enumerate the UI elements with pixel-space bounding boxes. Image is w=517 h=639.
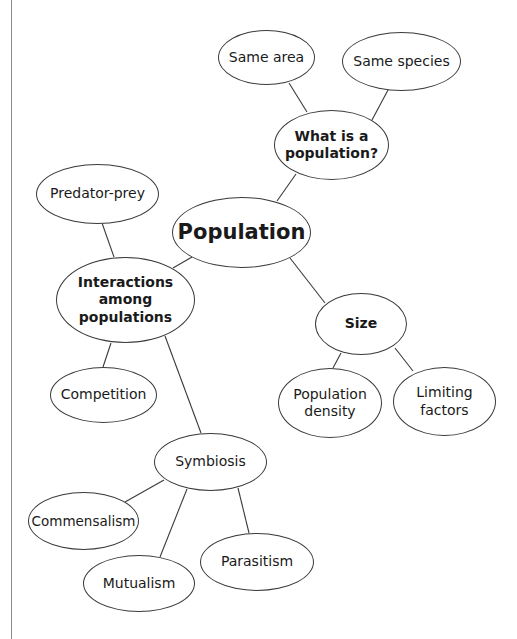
node-label-line2: factors [416,402,472,420]
node-size: Size [315,293,407,355]
node-label-line3: populations [78,309,173,327]
node-label: Commensalism [32,513,136,530]
edge-symbiosis-to-commensalism [125,480,164,502]
node-label: Symbiosis [175,453,246,471]
edge-interactions-to-competition [103,343,111,367]
node-label-line2: among [78,291,173,309]
edge-what-is-to-same-species [372,90,388,120]
node-label: Size [345,315,378,333]
edge-interactions-to-symbiosis [165,336,201,433]
node-symbiosis: Symbiosis [154,433,267,491]
node-competition: Competition [50,367,157,423]
node-label-line2: density [293,403,367,421]
edge-population-to-size [290,258,325,303]
edge-symbiosis-to-parasitism [238,488,249,533]
node-label-line1: Population [293,386,367,404]
node-population-root: Population [172,197,311,268]
node-limiting-factors: Limiting factors [393,367,496,436]
node-label: Mutualism [103,575,176,593]
edge-what-is-to-same-area [289,83,307,112]
edge-interactions-to-predator-prey [102,223,114,257]
node-predator-prey: Predator-prey [36,164,159,224]
node-same-species: Same species [342,32,461,91]
edge-size-to-population-density [333,353,341,368]
node-parasitism: Parasitism [200,533,314,591]
edge-symbiosis-to-mutualism [160,489,187,557]
edge-population-to-interactions [173,257,192,268]
edge-population-to-what-is [277,174,296,201]
node-mutualism: Mutualism [83,555,195,612]
edge-size-to-limiting-factors [395,348,413,371]
node-label-line1: Interactions [78,274,173,292]
node-label: Competition [61,386,147,404]
node-label: Same species [353,53,449,71]
node-population-density: Population density [278,368,382,438]
node-label: Same area [229,49,304,67]
node-label-line1: Limiting [416,384,472,402]
node-what-is-a-population: What is a population? [274,110,389,180]
node-label: Parasitism [221,553,293,571]
node-same-area: Same area [218,30,315,85]
node-interactions-among-populations: Interactions among populations [56,257,195,343]
node-label-line2: population? [285,145,378,163]
node-commensalism: Commensalism [28,492,139,550]
node-label: Population [178,219,306,245]
node-label: Predator-prey [50,185,145,203]
node-label-line1: What is a [285,128,378,146]
